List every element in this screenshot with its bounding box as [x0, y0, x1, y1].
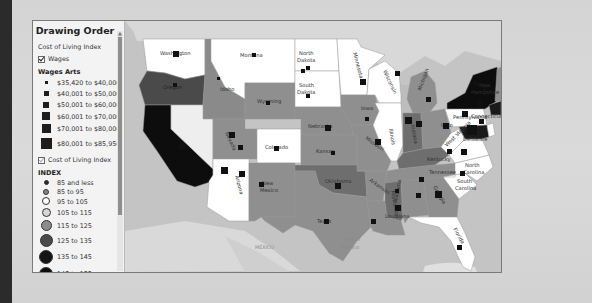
label-connecticut: Connecticut [471, 113, 501, 119]
index-symbol-2 [39, 187, 53, 196]
index-symbol-1 [39, 178, 53, 186]
wage-class-label: $35,420 to $40,000 [57, 79, 120, 87]
legend-panel: Drawing Order Cost of Living Index Wages… [33, 21, 125, 272]
label-texas: Texas [316, 218, 332, 224]
cost-of-living-label: Cost of Living Index [48, 156, 111, 164]
index-symbol-5 [39, 219, 53, 232]
wage-symbol-4 [39, 111, 53, 121]
label-kentucky: Kentucky [427, 156, 451, 163]
label-gulf-1: Gulf of [343, 236, 360, 242]
label-north-carolina-1: North [465, 162, 480, 168]
label-south-carolina-1: South [457, 178, 472, 184]
wage-symbol-6 [39, 137, 53, 150]
wages-label: Wages [48, 55, 69, 63]
wage-symbol-3 [39, 100, 53, 109]
index-class-label: 145 to 155 [57, 270, 92, 272]
index-symbol-3 [39, 196, 53, 206]
index-class-label: 95 to 105 [57, 198, 88, 206]
layer-cost-of-living[interactable]: Cost of Living Index [38, 43, 101, 51]
legend-scrollbar[interactable]: ▲ [117, 31, 123, 271]
legend-title: Drawing Order [33, 25, 117, 36]
label-mexico-country: MÉXICO [255, 244, 274, 250]
index-class-label: 85 and less [57, 179, 94, 187]
index-class-label: 115 to 125 [57, 222, 92, 230]
index-class-label: 125 to 135 [57, 237, 92, 245]
label-tennessee: Tennessee [428, 169, 456, 175]
wage-class-label: $80,001 to $85,950 [57, 140, 120, 148]
wage-class-label: $50,001 to $60,000 [57, 101, 120, 109]
index-class-label: 85 to 95 [57, 188, 84, 196]
wage-symbol-2 [39, 89, 53, 97]
label-new-mexico-2: Mexico [260, 187, 278, 193]
label-north-carolina-2: Carolina [463, 169, 484, 175]
wages-arts-heading: Wages Arts [38, 68, 80, 76]
label-idaho: Idaho [220, 86, 234, 92]
index-symbol-6 [39, 233, 53, 248]
label-iowa: Iowa [361, 105, 373, 111]
index-class-label: 105 to 115 [57, 209, 92, 217]
map-frame: Drawing Order Cost of Living Index Wages… [32, 20, 502, 273]
wage-class-label: $60,001 to $70,000 [57, 113, 120, 121]
index-class-label: 135 to 145 [57, 253, 92, 261]
label-north-dakota-1: North [299, 50, 314, 56]
label-gulf-2: Mexico [341, 244, 359, 250]
label-north-dakota-2: Dakota [297, 57, 315, 63]
wage-class-label: $70,001 to $80,000 [57, 125, 120, 133]
window-edge [0, 0, 12, 303]
label-south-dakota-1: South [299, 82, 314, 88]
label-delaware: Delaware [463, 136, 487, 142]
wage-class-label: $40,001 to $50,000 [57, 90, 120, 98]
index-heading: INDEX [38, 169, 61, 177]
wages-checkbox[interactable] [38, 56, 45, 63]
label-montana: Montana [240, 52, 263, 58]
index-symbol-8 [39, 266, 53, 272]
map-view[interactable]: Washington Oregon Idaho Montana Wyoming … [125, 21, 501, 272]
scroll-thumb[interactable] [118, 37, 122, 215]
label-south-carolina-2: Carolina [455, 185, 476, 191]
layer-wages-toggle[interactable]: Wages [38, 55, 69, 63]
index-symbol-4 [39, 207, 53, 218]
layer-cost-of-living-toggle[interactable]: Cost of Living Index [38, 156, 111, 164]
wage-symbol-1 [39, 78, 53, 86]
label-oregon: Oregon [163, 84, 182, 91]
scroll-up-arrow-icon[interactable]: ▲ [117, 31, 123, 36]
wage-symbol-5 [39, 123, 53, 134]
cost-of-living-checkbox[interactable] [38, 157, 45, 164]
index-symbol-7 [39, 249, 53, 265]
